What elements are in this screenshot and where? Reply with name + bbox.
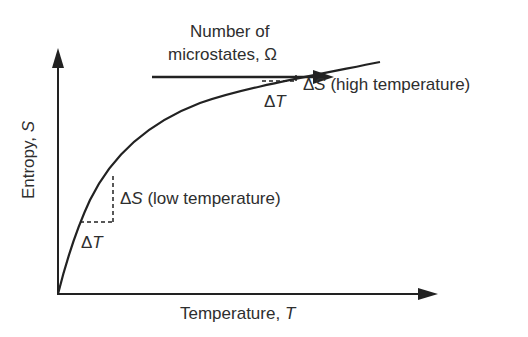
low-delta-t-label: ΔT (81, 233, 103, 253)
delta-symbol: Δ (120, 189, 131, 208)
t-var: T (92, 233, 102, 252)
s-var: S (131, 189, 142, 208)
y-axis-var: S (19, 121, 38, 132)
low-suffix: (low temperature) (143, 189, 281, 208)
delta-symbol: Δ (81, 233, 92, 252)
microstates-label-line2: microstates, Ω (168, 45, 277, 65)
low-delta-s-label: ΔS (low temperature) (120, 189, 281, 209)
high-delta-s-label: ΔS (high temperature) (303, 75, 470, 95)
y-axis-text: Entropy, (19, 132, 38, 199)
t-var: T (275, 92, 285, 111)
x-axis-label: Temperature, T (180, 304, 295, 324)
microstates-label-line1: Number of (190, 22, 269, 42)
delta-symbol: Δ (303, 75, 314, 94)
delta-symbol: Δ (264, 92, 275, 111)
x-axis-var: T (285, 304, 295, 323)
high-suffix: (high temperature) (326, 75, 471, 94)
high-delta-t-label: ΔT (264, 92, 286, 112)
s-var: S (314, 75, 325, 94)
y-axis-arrowhead (52, 48, 64, 68)
x-axis-arrowhead (418, 288, 438, 300)
y-axis-label: Entropy, S (19, 121, 39, 199)
x-axis-text: Temperature, (180, 304, 285, 323)
entropy-curve (58, 62, 380, 294)
